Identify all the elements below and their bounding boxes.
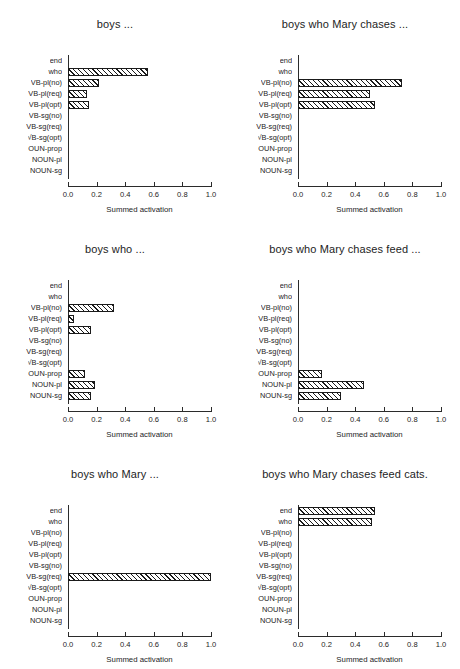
- bar-series: [298, 55, 442, 179]
- y-tick-label: VB-pl(no): [261, 302, 292, 313]
- y-tick-label: VB-pl(no): [31, 77, 62, 88]
- x-axis-line: [68, 636, 211, 637]
- bar-VB-pl(opt): [68, 326, 91, 334]
- chart-panel-grid: boys ...endwhoVB-pl(no)VB-pl(req)VB-pl(o…: [0, 0, 460, 669]
- x-tick-mark: [412, 632, 413, 636]
- x-tick-mark: [441, 407, 442, 412]
- y-tick-label: OUN-prop: [28, 593, 62, 604]
- chart-panel-2: boys who Mary chases ...endwhoVB-pl(no)V…: [230, 0, 460, 225]
- bar-NOUN-sg: [298, 392, 341, 400]
- x-axis-title: Summed activation: [68, 430, 211, 439]
- y-axis-tick-labels: endwhoVB-pl(no)VB-pl(req)VB-pl(opt)VB-sg…: [0, 280, 66, 404]
- bar-VB-pl(req): [298, 90, 370, 98]
- x-tick-mark: [441, 632, 442, 637]
- y-axis-tick-labels: endwhoVB-pl(no)VB-pl(req)VB-pl(opt)VB-sg…: [0, 505, 66, 629]
- x-tick-mark: [182, 632, 183, 636]
- x-tick-mark: [97, 407, 98, 411]
- x-tick-mark: [154, 632, 155, 636]
- x-tick-label: 0.8: [407, 415, 418, 424]
- bar-NOUN-prop: [68, 370, 85, 378]
- y-tick-label: who: [48, 516, 62, 527]
- y-tick-label: NOUN-sg: [30, 615, 62, 626]
- x-tick-label: 0.4: [350, 190, 361, 199]
- y-tick-label: who: [278, 516, 292, 527]
- bar-who: [68, 68, 148, 76]
- y-tick-label: VB-pl(no): [31, 527, 62, 538]
- x-tick-mark: [298, 632, 299, 637]
- plot-area: endwhoVB-pl(no)VB-pl(req)VB-pl(opt)VB-sg…: [0, 450, 230, 669]
- x-tick-label: 0.6: [379, 190, 390, 199]
- x-axis-line: [298, 186, 441, 187]
- y-tick-label: NOUN-pl: [262, 154, 292, 165]
- y-tick-label: VB-sg(no): [29, 560, 62, 571]
- y-tick-label: end: [280, 505, 292, 516]
- x-tick-label: 0.0: [293, 415, 304, 424]
- x-tick-label: 0.8: [177, 415, 188, 424]
- x-axis-line: [68, 411, 211, 412]
- x-tick-mark: [412, 182, 413, 186]
- x-tick-mark: [327, 182, 328, 186]
- x-tick-mark: [182, 407, 183, 411]
- x-tick-label: 0.0: [63, 415, 74, 424]
- y-tick-label: VB-pl(opt): [259, 99, 292, 110]
- x-tick-label: 0.2: [91, 640, 102, 649]
- y-tick-label: NOUN-pl: [262, 379, 292, 390]
- y-tick-label: √B-sg(opt): [28, 132, 62, 143]
- bar-who: [298, 518, 372, 526]
- page-bottom-cropped-text: [0, 661, 460, 669]
- y-tick-label: OUN-prop: [258, 143, 292, 154]
- x-tick-mark: [125, 407, 126, 411]
- x-tick-label: 0.4: [350, 640, 361, 649]
- x-tick-mark: [182, 182, 183, 186]
- x-tick-label: 0.0: [63, 190, 74, 199]
- y-tick-label: who: [48, 66, 62, 77]
- x-tick-label: 0.6: [149, 640, 160, 649]
- x-axis-title: Summed activation: [298, 430, 441, 439]
- bar-NOUN-pl: [68, 381, 95, 389]
- x-tick-mark: [97, 632, 98, 636]
- y-tick-label: OUN-prop: [258, 368, 292, 379]
- y-tick-label: VB-sg(req): [26, 346, 62, 357]
- x-tick-mark: [68, 632, 69, 637]
- bar-series: [68, 55, 212, 179]
- x-tick-mark: [125, 632, 126, 636]
- y-tick-label: VB-pl(opt): [29, 549, 62, 560]
- x-tick-label: 0.4: [120, 415, 131, 424]
- x-tick-label: 0.8: [407, 190, 418, 199]
- x-tick-mark: [327, 632, 328, 636]
- y-tick-label: VB-pl(opt): [259, 549, 292, 560]
- chart-panel-4: boys who Mary chases feed ...endwhoVB-pl…: [230, 225, 460, 450]
- bar-VB-pl(req): [68, 90, 87, 98]
- y-axis-tick-labels: endwhoVB-pl(no)VB-pl(req)VB-pl(opt)VB-sg…: [224, 280, 296, 404]
- x-tick-label: 0.6: [149, 415, 160, 424]
- x-axis-line: [68, 186, 211, 187]
- x-tick-label: 0.8: [407, 640, 418, 649]
- x-tick-mark: [384, 407, 385, 411]
- x-tick-label: 1.0: [206, 640, 217, 649]
- x-tick-label: 0.0: [63, 640, 74, 649]
- x-tick-mark: [211, 632, 212, 637]
- y-tick-label: VB-sg(req): [256, 571, 292, 582]
- bar-series: [298, 280, 442, 404]
- y-axis-tick-labels: endwhoVB-pl(no)VB-pl(req)VB-pl(opt)VB-sg…: [224, 55, 296, 179]
- x-tick-mark: [68, 407, 69, 412]
- y-tick-label: who: [278, 66, 292, 77]
- y-tick-label: NOUN-sg: [260, 165, 292, 176]
- y-tick-label: OUN-prop: [28, 368, 62, 379]
- y-tick-label: VB-pl(no): [261, 527, 292, 538]
- y-tick-label: VB-sg(no): [29, 335, 62, 346]
- y-tick-label: VB-sg(req): [26, 571, 62, 582]
- x-tick-label: 0.6: [379, 640, 390, 649]
- x-tick-mark: [125, 182, 126, 186]
- y-axis-tick-labels: endwhoVB-pl(no)VB-pl(req)VB-pl(opt)VB-sg…: [0, 55, 66, 179]
- x-tick-mark: [154, 182, 155, 186]
- y-tick-label: VB-pl(no): [261, 77, 292, 88]
- x-tick-mark: [355, 632, 356, 636]
- y-tick-label: NOUN-sg: [260, 615, 292, 626]
- x-tick-mark: [384, 632, 385, 636]
- x-tick-label: 0.0: [293, 640, 304, 649]
- y-tick-label: VB-pl(req): [258, 313, 292, 324]
- y-tick-label: NOUN-pl: [32, 604, 62, 615]
- bar-VB-sg(req): [68, 573, 211, 581]
- y-tick-label: who: [48, 291, 62, 302]
